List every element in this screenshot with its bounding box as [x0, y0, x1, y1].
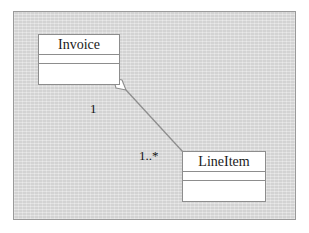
association-line — [126, 90, 183, 152]
diagram-canvas: Invoice LineItem 1 1..* — [13, 11, 296, 220]
uml-class-name-invoice: Invoice — [39, 35, 119, 55]
multiplicity-label-target: 1..* — [139, 149, 159, 162]
uml-attributes-compartment-invoice — [39, 55, 119, 64]
diagram-stage: Invoice LineItem 1 1..* — [0, 0, 309, 233]
uml-attributes-compartment-lineitem — [183, 172, 265, 181]
uml-class-name-lineitem: LineItem — [183, 152, 265, 172]
uml-class-invoice[interactable]: Invoice — [38, 34, 120, 85]
multiplicity-label-source: 1 — [90, 102, 97, 115]
uml-operations-compartment-invoice — [39, 64, 119, 74]
uml-operations-compartment-lineitem — [183, 181, 265, 191]
uml-class-lineitem[interactable]: LineItem — [182, 151, 266, 202]
